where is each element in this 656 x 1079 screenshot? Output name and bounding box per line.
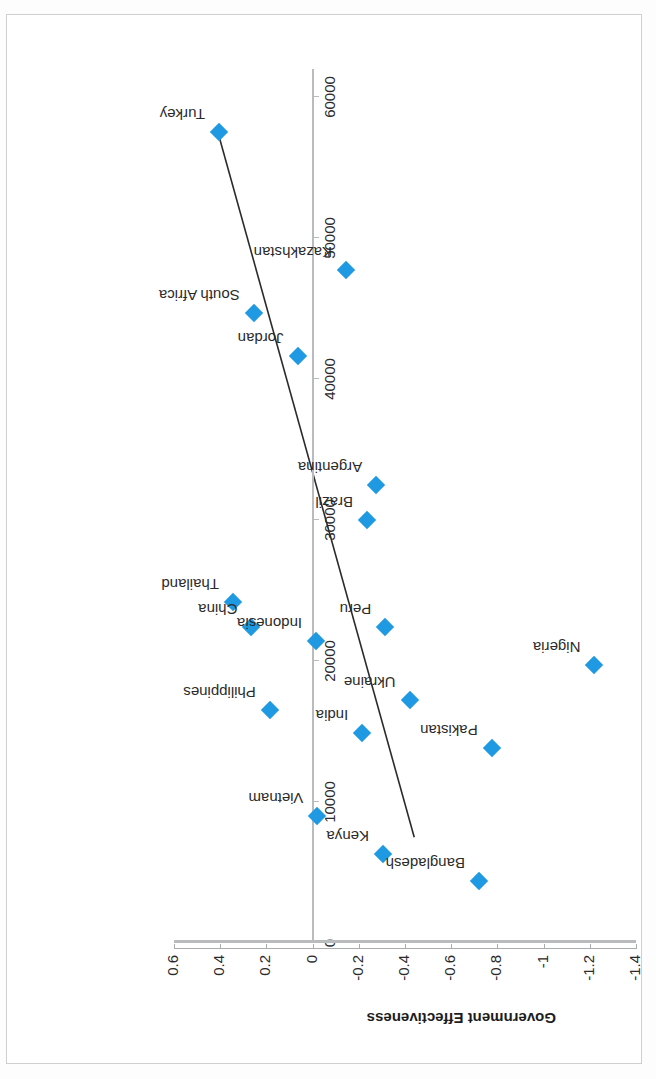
x-axis-tick <box>314 237 319 238</box>
y-axis-tick-label: -1.2 <box>580 955 597 1007</box>
data-point-label: Jordan <box>238 330 284 347</box>
y-axis-tick-label: -0.8 <box>487 955 504 1007</box>
x-axis-tick-label: 20000 <box>321 621 338 701</box>
figure-page: 01000020000300004000050000600000.60.40.2… <box>0 0 656 1079</box>
data-point-marker[interactable] <box>482 739 500 757</box>
y-axis-tick-label: -1.4 <box>626 955 643 1007</box>
x-axis-tick-label: 30000 <box>321 480 338 560</box>
data-point-marker[interactable] <box>358 511 376 529</box>
y-axis-tick-label: -1 <box>534 955 551 1007</box>
data-point-marker[interactable] <box>376 618 394 636</box>
x-axis-tick-label: 50000 <box>321 198 338 278</box>
x-axis-tick-label: 40000 <box>321 339 338 419</box>
x-axis-tick <box>314 519 319 520</box>
data-point-marker[interactable] <box>367 476 385 494</box>
data-point-label: Kazakhstan <box>254 244 332 261</box>
data-point-label: Vietnam <box>248 790 303 807</box>
data-point-marker[interactable] <box>261 701 279 719</box>
data-point-marker[interactable] <box>400 691 418 709</box>
data-point-label: Bangladesh <box>386 855 465 872</box>
x-axis-tick <box>314 378 319 379</box>
y-axis-tick <box>636 944 637 949</box>
x-axis-tick-label: 60000 <box>321 57 338 137</box>
data-point-label: Thailand <box>161 576 219 593</box>
x-axis-tick <box>314 96 319 97</box>
data-point-label: India <box>316 707 349 724</box>
data-point-label: Philippines <box>183 684 256 701</box>
data-point-label: Brazil <box>315 494 353 511</box>
data-point-label: Argentina <box>298 459 362 476</box>
data-point-label: South Africa <box>159 287 240 304</box>
y-axis-title: Government Effectiveness <box>367 1010 556 1027</box>
y-axis-tick-label: -0.6 <box>441 955 458 1007</box>
y-axis-spine <box>174 948 636 949</box>
y-axis-line <box>174 940 636 943</box>
y-axis-tick-label: 0.2 <box>256 955 273 1007</box>
data-point-label: Kenya <box>327 828 370 845</box>
data-point-label: China <box>198 601 237 618</box>
x-axis-tick <box>314 801 319 802</box>
y-axis-tick-label: 0.4 <box>210 955 227 1007</box>
x-axis-tick-label: 0 <box>321 903 338 983</box>
data-point-label: Turkey <box>160 106 205 123</box>
rotated-chart-container: 01000020000300004000050000600000.60.40.2… <box>0 0 656 1079</box>
data-point-marker[interactable] <box>288 347 306 365</box>
data-point-marker[interactable] <box>337 261 355 279</box>
scatter-plot-area: 01000020000300004000050000600000.60.40.2… <box>0 0 656 1079</box>
data-point-marker[interactable] <box>244 304 262 322</box>
data-point-marker[interactable] <box>210 123 228 141</box>
y-axis-tick-label: 0.6 <box>164 955 181 1007</box>
data-point-label: Indonesia <box>237 615 302 632</box>
data-point-marker[interactable] <box>470 872 488 890</box>
y-axis-tick-label: -0.2 <box>349 955 366 1007</box>
data-point-label: Peru <box>340 601 372 618</box>
x-axis-tick <box>314 660 319 661</box>
data-point-marker[interactable] <box>353 724 371 742</box>
y-axis-tick-label: 0 <box>303 955 320 1007</box>
data-point-label: Pakistan <box>420 722 478 739</box>
data-point-marker[interactable] <box>585 656 603 674</box>
data-point-label: Nigeria <box>533 639 581 656</box>
data-point-label: Ukraine <box>344 674 396 691</box>
y-axis-tick-label: -0.4 <box>395 955 412 1007</box>
